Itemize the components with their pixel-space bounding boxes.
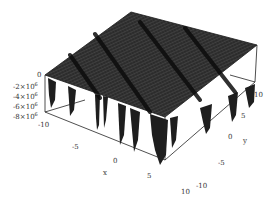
- z-tick-4-mantissa: -8×10: [13, 113, 35, 121]
- y-tick-0: 0: [228, 134, 232, 141]
- z-tick-2: -4×106: [13, 92, 38, 101]
- x-tick-10: 10: [181, 189, 190, 196]
- surface-plot: [0, 0, 278, 205]
- y-axis-name: y: [243, 138, 247, 145]
- z-tick-0: 0: [37, 72, 41, 79]
- z-tick-2-exp: 6: [35, 91, 38, 97]
- x-tick-m5: -5: [72, 144, 79, 151]
- x-tick-m10: -10: [38, 122, 49, 129]
- x-tick-5: 5: [147, 173, 151, 180]
- x-axis-name: x: [103, 170, 107, 177]
- x-tick-0: 0: [113, 158, 117, 165]
- z-tick-1-mantissa: -2×10: [13, 83, 35, 91]
- z-tick-4: -8×106: [13, 112, 38, 121]
- z-tick-2-mantissa: -4×10: [13, 93, 35, 101]
- y-tick-m10: -10: [196, 183, 207, 190]
- z-tick-1-exp: 6: [35, 81, 38, 87]
- y-tick-5: 5: [241, 113, 245, 120]
- z-tick-1: -2×106: [13, 82, 38, 91]
- z-tick-4-exp: 6: [35, 111, 38, 117]
- y-tick-m5: -5: [218, 160, 225, 167]
- z-tick-3: -6×106: [13, 102, 38, 111]
- y-tick-10: 10: [254, 92, 263, 99]
- z-tick-3-mantissa: -6×10: [13, 103, 35, 111]
- z-tick-3-exp: 6: [35, 101, 38, 107]
